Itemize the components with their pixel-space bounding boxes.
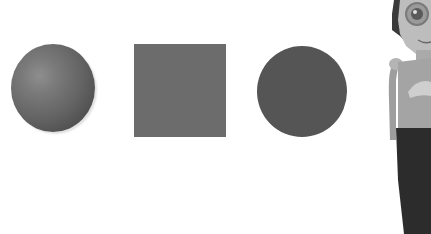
square-shape bbox=[134, 44, 226, 137]
cartoon-girl-illustration bbox=[386, 0, 431, 234]
shapes-scene bbox=[0, 0, 431, 234]
cartoon-girl-character bbox=[386, 0, 431, 234]
circle-shape bbox=[257, 46, 347, 137]
sphere-shape bbox=[11, 44, 95, 132]
